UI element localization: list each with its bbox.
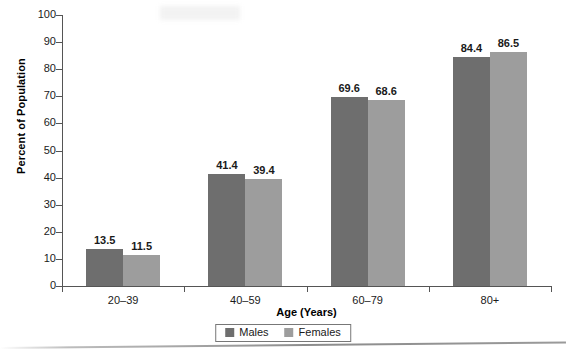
bar-males-20–39 [86, 249, 123, 286]
y-tick-label: 10 [30, 253, 56, 264]
bar-females-40–59 [245, 179, 282, 286]
y-tick-label: 80 [30, 63, 56, 74]
bar-males-60–79 [331, 97, 368, 286]
x-tick-label: 40–59 [200, 294, 290, 306]
x-tick-label: 80+ [445, 294, 535, 306]
y-tick-mark [56, 69, 62, 70]
y-axis-line [62, 15, 63, 286]
y-tick-mark [56, 178, 62, 179]
y-tick-mark [56, 259, 62, 260]
y-tick-label: 70 [30, 90, 56, 101]
x-tick-mark [62, 286, 63, 292]
y-tick-label: 90 [30, 36, 56, 47]
bar-females-60–79 [368, 100, 405, 286]
y-tick-mark [56, 42, 62, 43]
y-tick-mark [56, 96, 62, 97]
bar-males-80+ [453, 57, 490, 286]
y-tick-mark [56, 205, 62, 206]
y-axis-title: Percent of Population [15, 46, 27, 186]
y-tick-label: 100 [30, 9, 56, 20]
legend-item-females[interactable]: Females [285, 327, 341, 338]
y-tick-label: 60 [30, 117, 56, 128]
y-tick-label: 0 [30, 280, 56, 291]
legend-swatch-icon [225, 328, 234, 337]
y-tick-label: 50 [30, 145, 56, 156]
y-tick-label: 20 [30, 226, 56, 237]
x-axis-title: Age (Years) [62, 306, 551, 318]
x-tick-mark [307, 286, 308, 292]
legend-label: Females [299, 327, 341, 338]
bar-chart: 1009080706050403020100 Percent of Popula… [0, 0, 566, 357]
x-tick-mark [551, 286, 552, 292]
y-tick-label: 30 [30, 199, 56, 210]
bar-value-label: 68.6 [359, 85, 413, 97]
y-tick-mark [56, 123, 62, 124]
scan-artifact-smudge [160, 6, 240, 20]
scan-artifact-line [0, 342, 566, 349]
y-tick-label: 40 [30, 172, 56, 183]
legend-swatch-icon [285, 328, 294, 337]
y-tick-mark [56, 151, 62, 152]
legend: MalesFemales [215, 324, 351, 342]
bar-males-40–59 [208, 174, 245, 286]
x-tick-label: 60–79 [323, 294, 413, 306]
bar-females-20–39 [123, 255, 160, 286]
y-tick-mark [56, 15, 62, 16]
bar-value-label: 86.5 [481, 37, 535, 49]
y-tick-mark [56, 232, 62, 233]
x-tick-label: 20–39 [78, 294, 168, 306]
bar-value-label: 39.4 [237, 164, 291, 176]
bar-females-80+ [490, 52, 527, 286]
legend-label: Males [239, 327, 268, 338]
x-tick-mark [184, 286, 185, 292]
legend-item-males[interactable]: Males [225, 327, 268, 338]
x-tick-mark [429, 286, 430, 292]
bar-value-label: 11.5 [115, 240, 169, 252]
